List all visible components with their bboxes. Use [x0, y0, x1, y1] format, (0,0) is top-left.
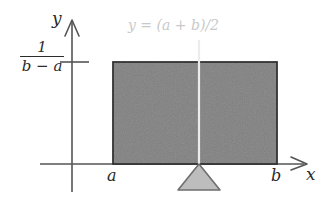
uniform-distribution-figure: y x a b 1 b − a y = (a + b)/2	[0, 0, 332, 211]
y-tick-label-density-height: 1 b − a	[19, 40, 65, 74]
density-rectangle	[113, 62, 277, 164]
x-axis-label: x	[306, 166, 316, 183]
fraction-denominator: b − a	[19, 57, 65, 74]
fraction-numerator: 1	[19, 40, 65, 56]
fulcrum-triangle-icon	[178, 164, 220, 190]
mean-annotation-label: y = (a + b)/2	[128, 18, 219, 32]
x-tick-label-a: a	[107, 168, 117, 184]
y-axis-label: y	[52, 10, 62, 27]
x-tick-label-b: b	[271, 168, 281, 184]
